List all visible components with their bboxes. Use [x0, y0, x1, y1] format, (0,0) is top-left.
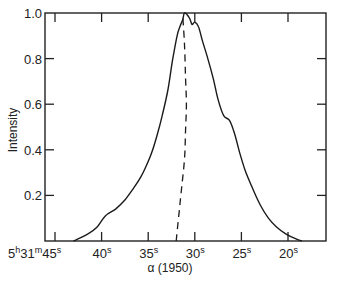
tick-labels: 0.20.40.60.81.05h31m45s40s35s30s25s20s	[8, 6, 298, 261]
y-tick-label: 0.2	[24, 188, 42, 203]
y-tick-label: 0.4	[24, 143, 42, 158]
x-tick-label: 25s	[232, 245, 251, 261]
x-axis-title: α (1950)	[148, 261, 193, 275]
data-series	[74, 13, 302, 241]
x-tick-label: 20s	[279, 245, 298, 261]
x-tick-label: 40s	[93, 245, 112, 261]
y-tick-label: 0.8	[24, 52, 42, 67]
y-tick-label: 0.6	[24, 97, 42, 112]
x-tick-label: 5h31m45s	[8, 245, 62, 261]
y-axis-title: Intensity	[6, 108, 20, 153]
chart-container: 0.20.40.60.81.05h31m45s40s35s30s25s20s α…	[0, 0, 337, 282]
dashed-center-line	[176, 15, 186, 241]
x-tick-label: 30s	[186, 245, 205, 261]
x-tick-label: 35s	[139, 245, 158, 261]
y-tick-label: 1.0	[24, 6, 42, 21]
intensity-chart: 0.20.40.60.81.05h31m45s40s35s30s25s20s α…	[0, 0, 337, 282]
intensity-curve	[74, 13, 302, 241]
